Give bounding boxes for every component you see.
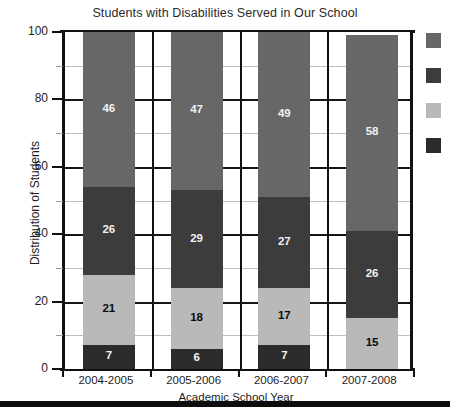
bar-2004-2005[interactable]: 7212646 — [83, 32, 135, 369]
y-tick-label-100: 100 — [8, 24, 48, 38]
bar-segment-value: 21 — [102, 303, 115, 315]
bar-segment-value: 6 — [193, 352, 199, 364]
bar-segment-value: 26 — [366, 268, 379, 280]
plot-area: 721264661829477172749152658 — [62, 32, 413, 369]
bar-segment-2004-2005-series-1[interactable]: 7 — [83, 345, 135, 369]
bar-segment-2005-2006-series-2[interactable]: 18 — [171, 288, 223, 349]
bar-2005-2006[interactable]: 6182947 — [171, 32, 223, 369]
x-tick-label-2005-2006: 2005-2006 — [150, 374, 238, 386]
category-separator-3 — [327, 32, 329, 369]
y-tick-80 — [52, 98, 63, 100]
category-separator-2 — [240, 32, 242, 369]
bar-segment-value: 7 — [281, 350, 287, 362]
bar-segment-2006-2007-series-1[interactable]: 7 — [258, 345, 310, 369]
bar-segment-value: 18 — [190, 312, 203, 324]
y-tick-100 — [52, 31, 63, 33]
bar-segment-2006-2007-series-4[interactable]: 49 — [258, 32, 310, 197]
bar-segment-2005-2006-series-1[interactable]: 6 — [171, 349, 223, 369]
bar-segment-2005-2006-series-4[interactable]: 47 — [171, 32, 223, 190]
bar-segment-value: 7 — [106, 350, 112, 362]
scan-artifact-band — [0, 401, 450, 407]
bar-segment-value: 58 — [366, 126, 379, 138]
bar-segment-2005-2006-series-3[interactable]: 29 — [171, 190, 223, 288]
legend-swatch-2[interactable] — [426, 68, 441, 83]
bar-segment-value: 27 — [278, 236, 291, 248]
bar-segment-value: 47 — [190, 104, 203, 116]
y-tick-label-60: 60 — [8, 159, 48, 173]
bar-segment-value: 29 — [190, 233, 203, 245]
bar-segment-2004-2005-series-3[interactable]: 26 — [83, 187, 135, 275]
bar-segment-2007-2008-series-4[interactable]: 58 — [346, 35, 398, 230]
y-tick-label-40: 40 — [8, 226, 48, 240]
bar-segment-2006-2007-series-2[interactable]: 17 — [258, 288, 310, 345]
bar-segment-value: 46 — [102, 103, 115, 115]
bar-segment-value: 15 — [366, 337, 379, 349]
bar-segment-value: 26 — [102, 224, 115, 236]
bar-2006-2007[interactable]: 7172749 — [258, 32, 310, 369]
chart-title: Students with Disabilities Served in Our… — [0, 6, 450, 20]
y-tick-40 — [52, 233, 63, 235]
bar-segment-2004-2005-series-4[interactable]: 46 — [83, 32, 135, 187]
y-tick-minor-10 — [56, 335, 63, 336]
legend-swatch-3[interactable] — [426, 103, 441, 118]
bar-segment-value: 49 — [278, 108, 291, 120]
x-tick-end — [413, 369, 415, 377]
y-tick-label-0: 0 — [8, 361, 48, 375]
bar-segment-2004-2005-series-2[interactable]: 21 — [83, 275, 135, 346]
bar-2007-2008[interactable]: 152658 — [346, 35, 398, 369]
bar-segment-2007-2008-series-3[interactable]: 26 — [346, 231, 398, 319]
bar-segment-value: 17 — [278, 310, 291, 322]
bar-segment-2007-2008-series-2[interactable]: 15 — [346, 318, 398, 369]
y-tick-minor-90 — [56, 66, 63, 67]
y-tick-label-20: 20 — [8, 294, 48, 308]
legend-swatch-4[interactable] — [426, 138, 441, 153]
x-tick-label-2006-2007: 2006-2007 — [238, 374, 326, 386]
y-tick-60 — [52, 166, 63, 168]
x-tick-label-2004-2005: 2004-2005 — [62, 374, 150, 386]
legend-swatch-1[interactable] — [426, 33, 441, 48]
bar-segment-2006-2007-series-3[interactable]: 27 — [258, 197, 310, 288]
category-separator-1 — [152, 32, 154, 369]
y-tick-label-80: 80 — [8, 91, 48, 105]
y-tick-minor-30 — [56, 268, 63, 269]
y-tick-minor-50 — [56, 201, 63, 202]
x-tick-label-2007-2008: 2007-2008 — [325, 374, 413, 386]
y-tick-20 — [52, 301, 63, 303]
y-tick-minor-70 — [56, 133, 63, 134]
